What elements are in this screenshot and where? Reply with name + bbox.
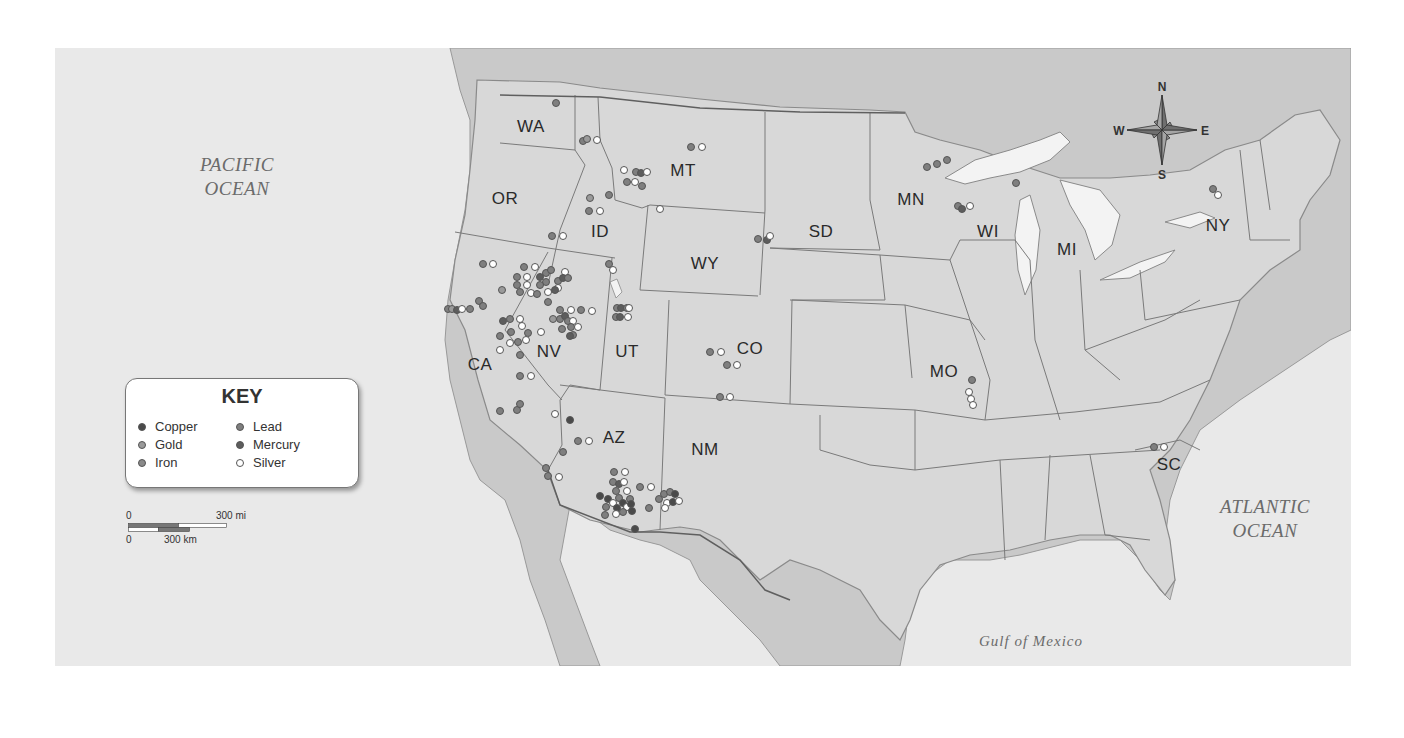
silver-site-marker [656, 205, 664, 213]
silver-site-marker [625, 304, 633, 312]
lead-site-marker [636, 483, 644, 491]
lead-site-marker [638, 182, 646, 190]
lead-site-marker [605, 191, 613, 199]
ocean-label-line: ATLANTIC [1220, 495, 1310, 519]
silver-site-marker [537, 328, 545, 336]
lead-site-marker [520, 263, 528, 271]
copper-site-marker [631, 525, 639, 533]
key-title: KEY [126, 385, 358, 408]
silver-site-marker [523, 281, 531, 289]
ocean-label-atlantic: ATLANTIC OCEAN [1220, 495, 1310, 543]
state-label-mi: MI [1057, 240, 1077, 260]
lead-site-marker [754, 235, 762, 243]
scale-bar-graphic [128, 523, 230, 533]
scale-bar: 0 300 mi 0 300 km [126, 510, 266, 546]
silver-site-marker [506, 339, 514, 347]
ocean-label-gulf: Gulf of Mexico [979, 632, 1083, 651]
key-label: Lead [253, 419, 282, 434]
key-item-iron: Iron [138, 455, 177, 470]
lead-site-marker [544, 298, 552, 306]
compass-north: N [1158, 80, 1167, 94]
state-label-ut: UT [615, 342, 639, 362]
ocean-label-line: OCEAN [1220, 519, 1310, 543]
lead-site-marker [1150, 443, 1158, 451]
scale-km-zero: 0 [126, 534, 132, 545]
state-label-az: AZ [603, 428, 626, 448]
silver-site-marker [969, 401, 977, 409]
lead-site-marker [544, 472, 552, 480]
mercury-site-marker [958, 205, 966, 213]
mercury-site-marker [616, 313, 624, 321]
copper-dot-icon [138, 423, 146, 431]
ocean-label-line: OCEAN [200, 177, 274, 201]
copper-site-marker [596, 492, 604, 500]
silver-site-marker [522, 336, 530, 344]
key-label: Copper [155, 419, 198, 434]
mercury-site-marker [551, 286, 559, 294]
ocean-label-line: Gulf of Mexico [979, 632, 1083, 651]
state-label-nm: NM [691, 440, 718, 460]
compass-rose: N S W E [1112, 80, 1212, 180]
state-label-wi: WI [977, 222, 999, 242]
state-label-wa: WA [517, 117, 545, 137]
lead-site-marker [507, 328, 515, 336]
silver-site-marker [489, 260, 497, 268]
silver-site-marker [624, 313, 632, 321]
silver-site-marker [458, 305, 466, 313]
compass-star-icon [1112, 80, 1212, 180]
silver-site-marker [643, 168, 651, 176]
lead-site-marker [577, 306, 585, 314]
key-label: Mercury [253, 437, 300, 452]
silver-site-marker [661, 504, 669, 512]
lead-site-marker [513, 273, 521, 281]
silver-site-marker [574, 323, 582, 331]
lead-site-marker [547, 266, 555, 274]
state-label-nv: NV [537, 342, 562, 362]
silver-site-marker [531, 263, 539, 271]
lead-site-marker [716, 393, 724, 401]
silver-site-marker [588, 307, 596, 315]
silver-site-marker [523, 273, 531, 281]
silver-site-marker [620, 166, 628, 174]
key-item-copper: Copper [138, 419, 198, 434]
state-label-co: CO [737, 339, 764, 359]
silver-site-marker [647, 483, 655, 491]
lead-site-marker [610, 468, 618, 476]
state-label-sd: SD [809, 222, 834, 242]
mercury-site-marker [566, 332, 574, 340]
copper-site-marker [566, 416, 574, 424]
lead-site-marker [506, 315, 514, 323]
scale-mi-zero: 0 [126, 510, 132, 521]
silver-site-marker [596, 207, 604, 215]
compass-west: W [1113, 124, 1124, 138]
silver-site-marker [1160, 443, 1168, 451]
lead-site-marker [619, 508, 627, 516]
silver-site-marker [766, 232, 774, 240]
scale-km-label: 300 km [164, 534, 197, 545]
silver-site-marker [717, 348, 725, 356]
lead-site-marker [645, 504, 653, 512]
lead-site-marker [466, 305, 474, 313]
lead-site-marker [723, 361, 731, 369]
silver-site-marker [675, 497, 683, 505]
key-label: Silver [253, 455, 286, 470]
state-label-mt: MT [670, 161, 696, 181]
lead-site-marker [536, 281, 544, 289]
lead-site-marker [548, 232, 556, 240]
state-label-mo: MO [930, 362, 958, 382]
lead-site-marker [496, 332, 504, 340]
scale-mi-label: 300 mi [216, 510, 246, 521]
silver-site-marker [527, 372, 535, 380]
silver-site-marker [612, 510, 620, 518]
silver-site-marker [698, 143, 706, 151]
gold-site-marker [583, 135, 591, 143]
state-label-or: OR [492, 189, 519, 209]
lead-site-marker [479, 302, 487, 310]
lead-site-marker [923, 163, 931, 171]
lead-site-marker [574, 437, 582, 445]
lead-site-marker [533, 290, 541, 298]
lead-dot-icon [236, 423, 244, 431]
map-key: KEY Copper Gold Iron Lead Mercury Silver [125, 378, 359, 488]
compass-south: S [1158, 168, 1166, 182]
silver-site-marker [1214, 191, 1222, 199]
